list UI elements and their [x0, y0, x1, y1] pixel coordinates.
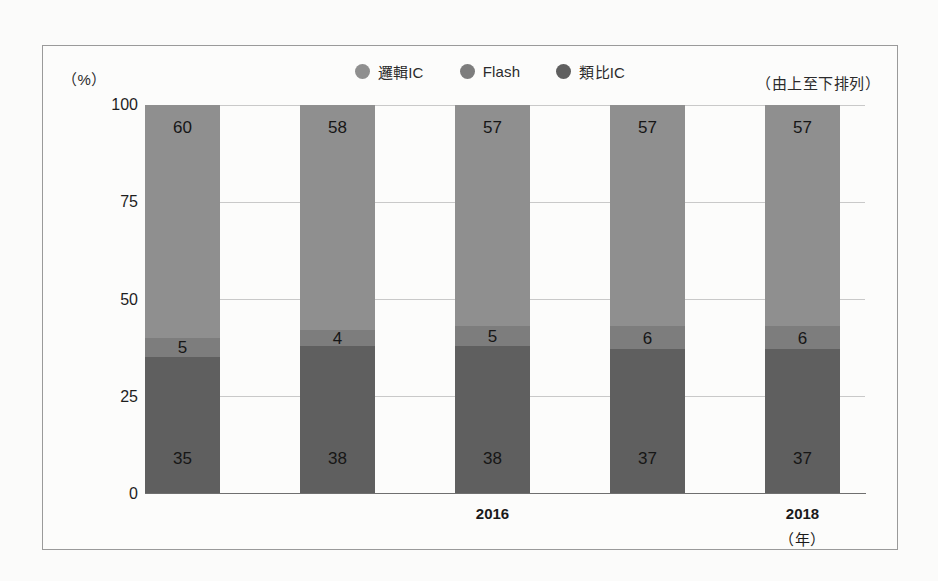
bar-segment-類比IC: 37	[610, 349, 685, 493]
legend-item-flash: Flash	[460, 63, 521, 80]
bar-value-label: 4	[333, 329, 342, 346]
bar-value-label: 37	[638, 450, 657, 467]
bar-value-label: 5	[178, 339, 187, 356]
x-axis-label-2016: 2016	[433, 505, 553, 522]
bar-2018: 57637	[765, 105, 840, 493]
circle-marker-icon	[556, 64, 571, 79]
bar-value-label: 57	[483, 119, 502, 136]
bar-segment-類比IC: 38	[455, 346, 530, 493]
bar-value-label: 57	[638, 119, 657, 136]
bar-segment-邏輯IC: 58	[300, 105, 375, 330]
bar-segment-類比IC: 37	[765, 349, 840, 493]
bar-value-label: 35	[173, 450, 192, 467]
bar-segment-邏輯IC: 60	[145, 105, 220, 338]
chart-legend: 邏輯IC Flash 類比IC	[280, 58, 700, 84]
bar-segment-Flash: 4	[300, 330, 375, 346]
x-axis-line	[145, 493, 866, 494]
bar-segment-邏輯IC: 57	[455, 105, 530, 326]
plot-area: 6053558438575385763757637	[145, 105, 865, 493]
circle-marker-icon	[355, 64, 370, 79]
bar-value-label: 57	[793, 119, 812, 136]
bar-value-label: 37	[793, 450, 812, 467]
legend-label: 類比IC	[579, 61, 625, 82]
bar-value-label: 6	[643, 329, 652, 346]
y-axis-tick-labels: 1007550250	[52, 105, 138, 494]
y-axis-tick-75: 75	[94, 193, 138, 211]
bar-2015: 58438	[300, 105, 375, 493]
bar-value-label: 58	[328, 119, 347, 136]
bar-segment-邏輯IC: 57	[610, 105, 685, 326]
bar-value-label: 6	[798, 329, 807, 346]
y-axis-tick-50: 50	[94, 291, 138, 309]
bar-segment-Flash: 5	[455, 326, 530, 345]
y-axis-unit-label: （%）	[62, 68, 107, 89]
bar-segment-邏輯IC: 57	[765, 105, 840, 326]
bar-value-label: 38	[328, 450, 347, 467]
circle-marker-icon	[460, 64, 475, 79]
bar-2014: 60535	[145, 105, 220, 493]
bar-segment-Flash: 6	[765, 326, 840, 349]
bar-segment-類比IC: 38	[300, 346, 375, 493]
bar-2016: 57538	[455, 105, 530, 493]
y-axis-tick-25: 25	[94, 388, 138, 406]
legend-item-analog-ic: 類比IC	[556, 61, 625, 82]
bar-value-label: 60	[173, 119, 192, 136]
bar-2017: 57637	[610, 105, 685, 493]
bar-segment-類比IC: 35	[145, 357, 220, 493]
stack-order-note: （由上至下排列）	[756, 72, 880, 93]
bar-segment-Flash: 6	[610, 326, 685, 349]
y-axis-tick-100: 100	[94, 96, 138, 114]
bar-value-label: 38	[483, 450, 502, 467]
x-axis-unit-label: （年）	[743, 528, 863, 549]
legend-label: Flash	[483, 63, 521, 80]
bar-value-label: 5	[488, 327, 497, 344]
chart-figure: 邏輯IC Flash 類比IC （由上至下排列） （%） 1007550250 …	[0, 0, 938, 581]
bar-segment-Flash: 5	[145, 338, 220, 357]
x-axis-label-2018: 2018	[743, 505, 863, 522]
legend-label: 邏輯IC	[378, 61, 424, 82]
legend-item-logic-ic: 邏輯IC	[355, 61, 424, 82]
y-axis-tick-0: 0	[94, 485, 138, 503]
